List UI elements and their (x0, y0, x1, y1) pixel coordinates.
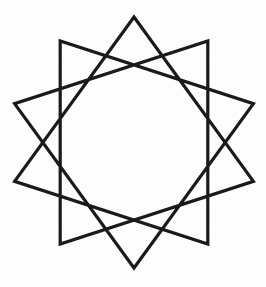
figure-canvas: Ten-Pointed Star Polygon A single contin… (0, 0, 266, 287)
scan-artifact-band (0, 272, 266, 287)
star-polygon-figure (0, 0, 266, 287)
